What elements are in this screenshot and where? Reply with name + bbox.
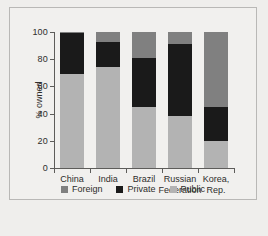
y-tick-label: 20 — [38, 136, 48, 146]
y-tick-label: 60 — [38, 81, 48, 91]
y-tick-mark — [50, 86, 54, 87]
bar-segment-public — [96, 67, 120, 168]
bar-3 — [132, 32, 156, 168]
bar-segment-foreign — [132, 32, 156, 58]
bar-2 — [96, 32, 120, 168]
bar-segment-foreign — [168, 32, 192, 44]
x-tick-mark — [198, 168, 199, 173]
bar-4 — [168, 32, 192, 168]
y-tick-label: 40 — [38, 109, 48, 119]
plot-area: % owned 020406080100 ChinaIndiaBrazilRus… — [54, 32, 234, 168]
chart-legend: ForeignPrivatePublic — [10, 184, 256, 194]
y-tick-mark — [50, 59, 54, 60]
bar-5 — [204, 32, 228, 168]
bar-segment-public — [60, 74, 84, 168]
y-tick-mark — [50, 114, 54, 115]
y-tick-label: 80 — [38, 54, 48, 64]
chart-figure: % owned 020406080100 ChinaIndiaBrazilRus… — [9, 7, 257, 200]
x-tick-mark — [54, 168, 55, 173]
bar-segment-private — [60, 33, 84, 74]
y-tick-label: 0 — [43, 163, 48, 173]
bar-segment-public — [204, 141, 228, 168]
legend-swatch-icon — [61, 186, 68, 193]
bar-segment-foreign — [204, 32, 228, 107]
legend-swatch-icon — [116, 186, 123, 193]
x-tick-mark — [126, 168, 127, 173]
y-tick-mark — [50, 141, 54, 142]
bar-segment-foreign — [96, 32, 120, 42]
bar-segment-private — [168, 44, 192, 116]
y-tick-label: 100 — [32, 27, 48, 37]
legend-item-public: Public — [170, 184, 206, 194]
legend-label: Foreign — [72, 184, 103, 194]
legend-label: Public — [181, 184, 206, 194]
legend-item-foreign: Foreign — [61, 184, 103, 194]
bar-segment-foreign — [60, 32, 84, 33]
x-tick-mark — [234, 168, 235, 173]
legend-swatch-icon — [170, 186, 177, 193]
bar-segment-public — [132, 107, 156, 168]
y-tick-mark — [50, 32, 54, 33]
x-axis-line — [54, 168, 235, 169]
legend-label: Private — [127, 184, 155, 194]
bar-segment-private — [132, 58, 156, 107]
x-tick-mark — [162, 168, 163, 173]
legend-item-private: Private — [116, 184, 155, 194]
bar-1 — [60, 32, 84, 168]
y-axis-line — [54, 32, 55, 169]
bar-segment-private — [96, 42, 120, 68]
bar-segment-private — [204, 107, 228, 141]
x-tick-mark — [90, 168, 91, 173]
bar-segment-public — [168, 116, 192, 168]
